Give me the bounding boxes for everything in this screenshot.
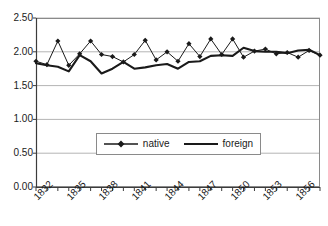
chart-container: 0.000.501.001.502.002.50 183218351838184…	[0, 0, 328, 226]
legend-label-native: native	[143, 139, 170, 149]
legend-swatch-native-icon	[104, 139, 138, 149]
legend-item-native: native	[104, 139, 170, 149]
chart-legend: native foreign	[96, 133, 261, 155]
legend-swatch-foreign-icon	[184, 139, 218, 149]
legend-item-foreign: foreign	[184, 139, 254, 149]
chart-plot-area	[0, 0, 328, 226]
plot-border	[36, 18, 320, 188]
legend-label-foreign: foreign	[223, 139, 254, 149]
y-axis-ticks	[33, 18, 36, 187]
